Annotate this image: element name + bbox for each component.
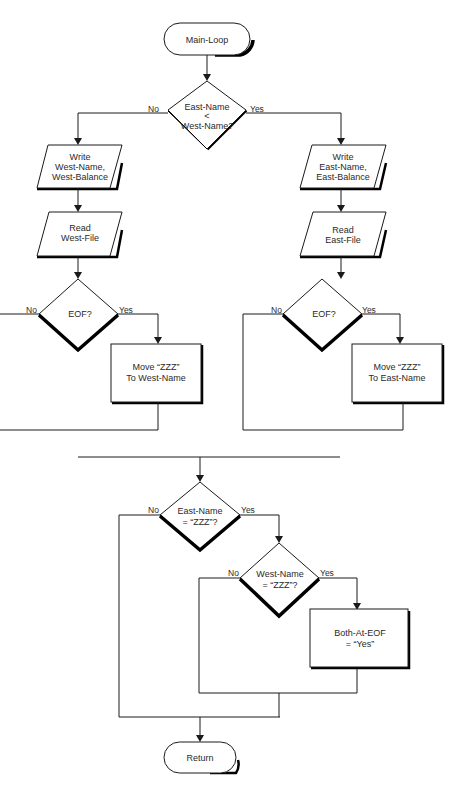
svg-text:West-File: West-File	[61, 233, 99, 243]
svg-text:Yes: Yes	[241, 505, 255, 515]
svg-text:No: No	[148, 505, 159, 515]
svg-text:Write: Write	[70, 152, 91, 162]
decision-eof-west: EOF?	[39, 279, 118, 350]
svg-text:Move “ZZZ”: Move “ZZZ”	[133, 362, 180, 372]
process-both-at-eof: Both-At-EOF = “Yes”	[310, 609, 409, 668]
process-move-zzz-west: Move “ZZZ” To West-Name	[111, 344, 202, 403]
svg-text:West-Name?: West-Name?	[181, 121, 233, 131]
svg-text:Write: Write	[333, 152, 354, 162]
svg-text:<: <	[204, 111, 209, 121]
svg-text:= “ZZZ”?: = “ZZZ”?	[262, 580, 297, 590]
io-read-west: Read West-File	[37, 212, 122, 257]
io-write-west: Write West-Name, West-Balance	[37, 145, 122, 189]
svg-text:EOF?: EOF?	[68, 309, 92, 319]
return-label: Return	[186, 753, 213, 763]
decision-eof-east: EOF?	[283, 279, 362, 350]
decision-east-name-zzz: East-Name = “ZZZ”?	[160, 482, 240, 550]
node-main-loop: Main-Loop	[164, 23, 253, 55]
svg-text:Yes: Yes	[320, 568, 334, 578]
svg-text:West-Balance: West-Balance	[52, 172, 108, 182]
io-read-east: Read East-File	[300, 212, 386, 257]
svg-text:Read: Read	[332, 225, 354, 235]
svg-text:To West-Name: To West-Name	[126, 373, 185, 383]
decision-east-less-west: East-Name < West-Name?	[168, 81, 246, 149]
svg-text:East-Balance: East-Balance	[316, 172, 370, 182]
node-return: Return	[164, 742, 239, 773]
main-loop-label: Main-Loop	[186, 35, 229, 45]
svg-text:Both-At-EOF: Both-At-EOF	[334, 628, 386, 638]
svg-text:Move “ZZZ”: Move “ZZZ”	[374, 362, 421, 372]
decision-west-name-zzz: West-Name = “ZZZ”?	[240, 543, 319, 616]
flowchart: Main-Loop East-Name < West-Name? No Yes …	[0, 0, 472, 790]
svg-text:Read: Read	[69, 223, 91, 233]
svg-text:No: No	[228, 568, 239, 578]
svg-text:East-File: East-File	[325, 235, 361, 245]
svg-text:East-Name: East-Name	[177, 506, 222, 516]
svg-text:EOF?: EOF?	[312, 309, 336, 319]
svg-text:West-Name,: West-Name,	[55, 162, 105, 172]
svg-text:West-Name: West-Name	[256, 569, 303, 579]
svg-text:To East-Name: To East-Name	[368, 373, 425, 383]
process-move-zzz-east: Move “ZZZ” To East-Name	[352, 344, 443, 403]
io-write-east: Write East-Name, East-Balance	[300, 145, 386, 189]
svg-text:East-Name,: East-Name,	[319, 162, 367, 172]
svg-text:= “Yes”: = “Yes”	[346, 639, 374, 649]
svg-text:= “ZZZ”?: = “ZZZ”?	[182, 517, 217, 527]
